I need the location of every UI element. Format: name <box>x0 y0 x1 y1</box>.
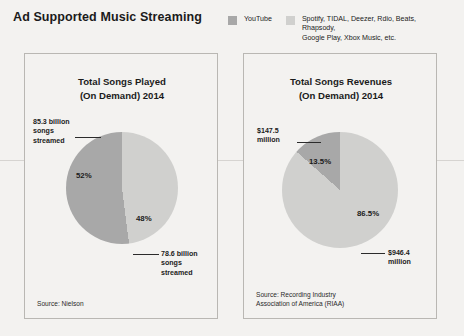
page-title: Ad Supported Music Streaming <box>13 10 202 24</box>
callout-others-value: $946.4 million <box>388 249 411 268</box>
legend-item-youtube: YouTube <box>228 15 272 25</box>
chart-source: Source: Nielson <box>37 299 84 308</box>
chart-panel-songs-revenues: Total Songs Revenues (On Demand) 2014 13… <box>243 53 437 319</box>
callout-leader-line <box>297 142 321 143</box>
pie-slice-label-youtube: 52% <box>76 171 92 180</box>
chart-title: Total Songs Revenues (On Demand) 2014 <box>244 75 438 102</box>
callout-leader-line <box>361 253 385 254</box>
legend: YouTube Spotify, TIDAL, Deezer, Rdio, Be… <box>228 15 464 43</box>
legend-swatch-icon <box>286 16 295 25</box>
chart-title: Total Songs Played (On Demand) 2014 <box>25 75 219 102</box>
pie-slice-label-youtube: 13.5% <box>309 157 331 166</box>
pie-chart-songs-played <box>66 132 178 244</box>
callout-leader-line <box>75 137 101 138</box>
legend-item-label: YouTube <box>244 15 272 24</box>
pie-slice-label-others: 48% <box>136 214 152 223</box>
pie-chart-songs-revenues <box>282 132 398 248</box>
legend-item-label: Spotify, TIDAL, Deezer, Rdio, Beats, Rha… <box>302 15 450 43</box>
pie-slice-label-others: 86.5% <box>357 209 379 218</box>
legend-item-other-services: Spotify, TIDAL, Deezer, Rdio, Beats, Rha… <box>286 15 450 43</box>
callout-youtube-value: 85.3 billion songs streamed <box>33 118 70 146</box>
callout-leader-line <box>133 254 159 255</box>
chart-panel-songs-played: Total Songs Played (On Demand) 2014 52% … <box>24 53 218 319</box>
page-header: Ad Supported Music Streaming YouTube Spo… <box>0 0 464 48</box>
legend-swatch-icon <box>228 16 237 25</box>
callout-others-value: 78.6 billion songs streamed <box>161 250 198 278</box>
pie-graphic <box>282 132 398 248</box>
chart-source: Source: Recording Industry Association o… <box>256 290 344 308</box>
pie-graphic <box>66 132 178 244</box>
callout-youtube-value: $147.5 million <box>257 127 280 146</box>
